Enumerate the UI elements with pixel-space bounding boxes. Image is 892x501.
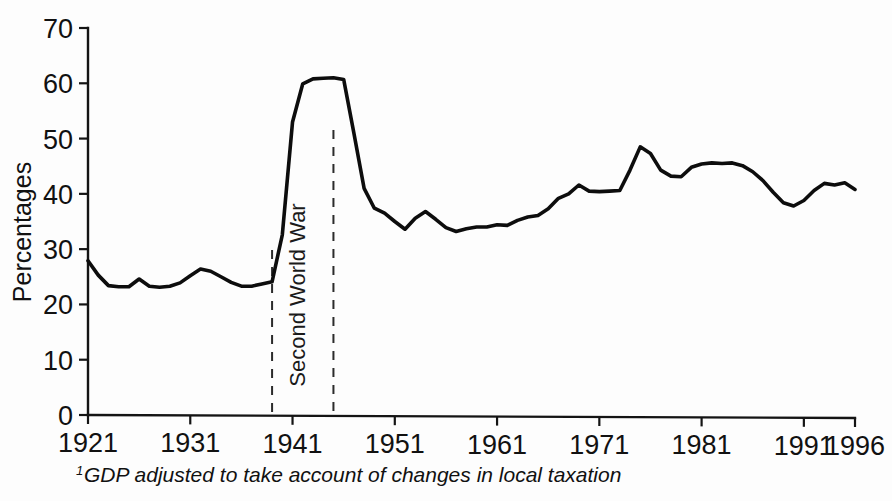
- y-tick-label-30: 30: [43, 235, 73, 265]
- y-axis-tick-labels: 010203040506070: [43, 14, 73, 431]
- war-annotation-group: Second World War: [272, 130, 333, 414]
- y-axis-ticks: [79, 28, 88, 415]
- y-axis-title: Percentages: [8, 162, 36, 302]
- y-axis-group: 010203040506070: [43, 14, 88, 431]
- x-tick-label-1931: 1931: [160, 428, 220, 458]
- footnote: 1 GDP adjusted to take account of change…: [76, 463, 621, 486]
- y-tick-label-40: 40: [43, 180, 73, 210]
- footnote-marker-superscript: 1: [76, 463, 83, 478]
- x-axis-group: 192119311941195119611971198119911996: [58, 415, 885, 461]
- x-axis-line: [88, 415, 855, 418]
- x-tick-label-1996: 1996: [825, 431, 885, 461]
- war-annotation-label: Second World War: [285, 203, 310, 386]
- x-axis-tick-labels: 192119311941195119611971198119911996: [58, 428, 885, 461]
- footnote-label: GDP adjusted to take account of changes …: [84, 463, 621, 486]
- x-tick-label-1951: 1951: [365, 429, 425, 459]
- y-tick-label-50: 50: [43, 125, 73, 155]
- y-tick-label-20: 20: [43, 290, 73, 320]
- x-tick-label-1961: 1961: [467, 430, 527, 460]
- y-tick-label-70: 70: [43, 14, 73, 44]
- y-tick-label-10: 10: [43, 346, 73, 376]
- x-tick-label-1921: 1921: [58, 428, 118, 458]
- x-tick-label-1941: 1941: [262, 429, 322, 459]
- y-tick-label-60: 60: [43, 69, 73, 99]
- line-chart: 010203040506070 192119311941195119611971…: [0, 0, 892, 501]
- x-tick-label-1971: 1971: [569, 430, 629, 460]
- data-series-line: [88, 78, 855, 288]
- x-tick-label-1981: 1981: [672, 430, 732, 460]
- y-tick-label-0: 0: [58, 401, 73, 431]
- chart-figure: 010203040506070 192119311941195119611971…: [0, 0, 892, 501]
